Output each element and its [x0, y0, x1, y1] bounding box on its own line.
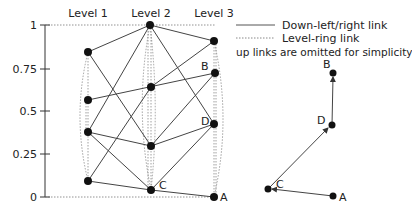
tick-label: 0.25 [13, 148, 38, 161]
level-ring-links [80, 25, 223, 197]
y-axis-tick-labels: 1 0.75 0.5 0.25 0 [13, 19, 38, 204]
node-level1-top [84, 48, 92, 56]
level-labels: Level 1 Level 2 Level 3 [68, 7, 234, 20]
level-ring-diagram: 1 0.75 0.5 0.25 0 Level 1 Level 2 Level … [0, 0, 412, 213]
legend-note: up links are omitted for simplicity [236, 46, 412, 58]
node-b [211, 69, 219, 77]
tick-label: 0 [30, 191, 37, 204]
node-level2-mid [147, 83, 155, 91]
legend: Down-left/right link Level-ring link up … [236, 19, 412, 58]
node-level3-top [210, 37, 218, 45]
label-c: C [159, 179, 167, 192]
node-level1-low [84, 128, 92, 136]
path-node-b [330, 70, 337, 77]
node-a [210, 193, 218, 201]
path-node-a [330, 193, 337, 200]
down-links [88, 25, 215, 197]
tick-label: 1 [30, 19, 37, 32]
level-2-label: Level 2 [131, 7, 171, 20]
y-axis [40, 25, 50, 197]
label-b: B [201, 60, 209, 73]
label-d: D [201, 115, 209, 128]
path-label-d: D [317, 114, 325, 127]
graph-nodes [84, 21, 219, 201]
node-level2-top [146, 21, 154, 29]
path-label-b: B [323, 58, 331, 71]
path-example-labels: B D C A [276, 58, 347, 204]
legend-solid-label: Down-left/right link [282, 19, 388, 32]
node-labels: B D C A [159, 60, 228, 204]
node-c [147, 186, 155, 194]
path-node-c [265, 186, 272, 193]
level-3-label: Level 3 [194, 7, 234, 20]
path-node-d [329, 122, 336, 129]
node-level1-bottom [84, 177, 92, 185]
path-label-a: A [339, 191, 347, 204]
path-label-c: C [276, 178, 284, 191]
tick-label: 0.5 [20, 105, 38, 118]
tick-label: 0.75 [13, 63, 38, 76]
label-a: A [220, 191, 228, 204]
level-1-label: Level 1 [68, 7, 108, 20]
node-d [210, 120, 218, 128]
node-level2-low [147, 142, 155, 150]
node-level1-mid [84, 96, 92, 104]
legend-dotted-label: Level-ring link [282, 32, 360, 45]
